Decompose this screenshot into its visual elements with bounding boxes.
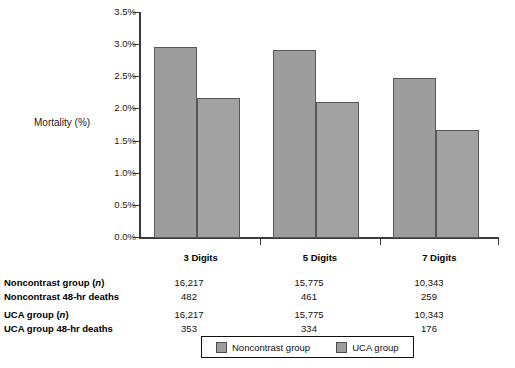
table-cell: 15,775 xyxy=(261,277,357,288)
y-axis-tick-mark xyxy=(133,76,139,77)
legend-swatch-icon xyxy=(216,342,227,353)
table-cell: 334 xyxy=(261,323,357,334)
y-axis-tick-mark xyxy=(133,141,139,142)
y-axis-tick-mark xyxy=(133,173,139,174)
y-axis-tick-mark xyxy=(133,44,139,45)
x-axis-tick-mark xyxy=(380,239,381,245)
data-table: Noncontrast group (n)16,21715,77510,343N… xyxy=(0,263,515,337)
table-cell: 10,343 xyxy=(381,277,477,288)
y-axis-tick-mark xyxy=(133,108,139,109)
y-axis-title: Mortality (%) xyxy=(34,117,90,128)
x-axis-label: 5 Digits xyxy=(260,252,379,263)
legend-label: UCA group xyxy=(352,342,398,353)
y-axis-tick-mark xyxy=(133,12,139,13)
bar-5-digits-uca-group xyxy=(316,102,359,238)
table-cell: 482 xyxy=(141,291,237,302)
table-row: UCA group 48-hr deaths353334176 xyxy=(0,323,515,337)
legend-label: Noncontrast group xyxy=(232,342,310,353)
bar-3-digits-uca-group xyxy=(197,98,240,238)
table-cell: 16,217 xyxy=(141,309,237,320)
y-axis-tick-mark xyxy=(133,205,139,206)
x-axis-label: 3 Digits xyxy=(141,252,260,263)
table-row-label: UCA group (n) xyxy=(4,309,69,320)
legend-item-noncontrast-group: Noncontrast group xyxy=(216,342,310,353)
chart-legend: Noncontrast group UCA group xyxy=(201,336,414,358)
plot-area: Mortality (%) 0.0%0.5%1.0%1.5%2.0%2.5%3.… xyxy=(0,0,515,248)
table-cell: 16,217 xyxy=(141,277,237,288)
x-axis-label: 7 Digits xyxy=(380,252,499,263)
table-cell: 176 xyxy=(381,323,477,334)
bar-7-digits-uca-group xyxy=(436,130,479,238)
table-row: UCA group (n)16,21715,77510,343 xyxy=(0,309,515,323)
table-cell: 353 xyxy=(141,323,237,334)
table-cell: 461 xyxy=(261,291,357,302)
table-header-row xyxy=(0,263,515,277)
bar-5-digits-noncontrast-group xyxy=(273,50,316,238)
x-axis-tick-mark xyxy=(498,239,499,245)
table-cell: 259 xyxy=(381,291,477,302)
bar-7-digits-noncontrast-group xyxy=(393,78,436,238)
legend-swatch-icon xyxy=(336,342,347,353)
table-row-label: Noncontrast 48-hr deaths xyxy=(4,291,119,302)
table-row-label: Noncontrast group (n) xyxy=(4,277,104,288)
table-row-label: UCA group 48-hr deaths xyxy=(4,323,113,334)
table-cell: 15,775 xyxy=(261,309,357,320)
table-row: Noncontrast group (n)16,21715,77510,343 xyxy=(0,277,515,291)
y-axis-tick-mark xyxy=(133,237,139,238)
bar-3-digits-noncontrast-group xyxy=(154,47,197,238)
table-row: Noncontrast 48-hr deaths482461259 xyxy=(0,291,515,305)
chart-page: Mortality (%) 0.0%0.5%1.0%1.5%2.0%2.5%3.… xyxy=(0,0,515,368)
legend-item-uca-group: UCA group xyxy=(336,342,398,353)
bar-series-container xyxy=(141,12,499,238)
table-cell: 10,343 xyxy=(381,309,477,320)
x-axis-tick-mark xyxy=(260,239,261,245)
